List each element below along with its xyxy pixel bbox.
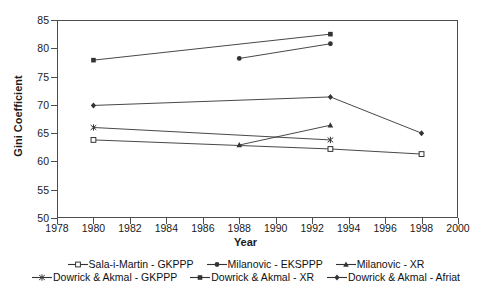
y-tick — [51, 133, 57, 134]
legend-label: Dowrick & Akmal - Afriat — [348, 272, 460, 283]
legend-label: Milanovic - XR — [357, 259, 425, 270]
legend-key-open-square — [67, 259, 89, 270]
marker-filled-square — [198, 275, 203, 280]
plot-area — [57, 20, 458, 218]
marker-open-square — [75, 262, 80, 267]
y-tick — [51, 20, 57, 21]
y-tick-label: 55 — [5, 185, 49, 195]
legend-row: Sala-i-Martin - GKPPPMilanovic - EKSPPPM… — [0, 258, 491, 271]
legend-label: Dowrick & Akmal - XR — [211, 272, 314, 283]
x-tick-label: 2000 — [435, 222, 481, 234]
legend-item[interactable]: Milanovic - EKSPPP — [206, 258, 323, 271]
chart-legend: Sala-i-Martin - GKPPPMilanovic - EKSPPPM… — [0, 258, 491, 284]
x-axis-title: Year — [0, 236, 491, 248]
legend-item[interactable]: Milanovic - XR — [335, 258, 425, 271]
legend-item[interactable]: Dowrick & Akmal - GKPPP — [31, 271, 177, 284]
legend-key-filled-square — [189, 272, 211, 283]
y-tick — [51, 105, 57, 106]
legend-item[interactable]: Dowrick & Akmal - Afriat — [326, 271, 460, 284]
legend-label: Sala-i-Martin - GKPPP — [89, 259, 194, 270]
legend-key-filled-diamond — [326, 272, 348, 283]
y-axis-title: Gini Coefficient — [12, 46, 24, 186]
y-tick — [51, 48, 57, 49]
y-tick — [51, 77, 57, 78]
legend-row: Dowrick & Akmal - GKPPPDowrick & Akmal -… — [0, 271, 491, 284]
marker-filled-diamond — [334, 275, 339, 281]
y-tick — [51, 161, 57, 162]
legend-key-star — [31, 272, 53, 283]
marker-filled-circle — [214, 262, 219, 267]
legend-item[interactable]: Sala-i-Martin - GKPPP — [67, 258, 194, 271]
legend-key-filled-triangle — [335, 259, 357, 270]
y-tick-label: 85 — [5, 15, 49, 25]
legend-item[interactable]: Dowrick & Akmal - XR — [189, 271, 314, 284]
y-tick — [51, 190, 57, 191]
gini-coefficient-line-chart: 5055606570758085 19781980198219841986198… — [0, 0, 491, 295]
legend-label: Milanovic - EKSPPP — [228, 259, 323, 270]
legend-label: Dowrick & Akmal - GKPPP — [53, 272, 177, 283]
legend-key-filled-circle — [206, 259, 228, 270]
